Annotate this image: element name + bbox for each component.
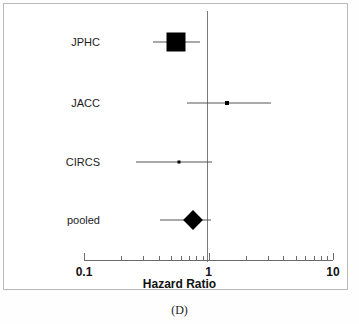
axis-minor-tick (314, 256, 315, 260)
null-reference-line (207, 11, 208, 262)
effect-estimate-marker (225, 101, 229, 105)
axis-major-tick (84, 253, 85, 260)
study-label-circs: CIRCS (0, 156, 100, 168)
panel-caption: (D) (0, 303, 359, 318)
axis-minor-tick (321, 256, 322, 260)
confidence-interval-line (187, 103, 272, 104)
effect-estimate-marker (178, 161, 181, 164)
axis-minor-tick (203, 256, 204, 260)
axis-minor-tick (268, 256, 269, 260)
x-axis-title: Hazard Ratio (0, 277, 359, 291)
axis-minor-tick (143, 256, 144, 260)
axis-minor-tick (196, 256, 197, 260)
axis-minor-tick (159, 256, 160, 260)
axis-minor-tick (181, 256, 182, 260)
study-label-pooled: pooled (0, 214, 100, 226)
axis-minor-tick (246, 256, 247, 260)
axis-major-tick (209, 253, 210, 260)
effect-estimate-marker (167, 33, 186, 52)
axis-minor-tick (296, 256, 297, 260)
axis-minor-tick (305, 256, 306, 260)
study-label-jacc: JACC (0, 97, 100, 109)
axis-major-tick (333, 253, 334, 260)
axis-minor-tick (327, 256, 328, 260)
forest-plot-figure: JPHCJACCCIRCSpooled 0.1110 Hazard Ratio … (0, 0, 359, 324)
axis-minor-tick (171, 256, 172, 260)
axis-minor-tick (189, 256, 190, 260)
study-label-jphc: JPHC (0, 36, 100, 48)
axis-minor-tick (283, 256, 284, 260)
x-axis-line (84, 260, 333, 261)
confidence-interval-line (136, 162, 212, 163)
axis-minor-tick (121, 256, 122, 260)
